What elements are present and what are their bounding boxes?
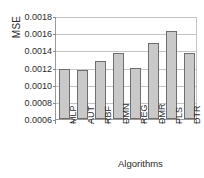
y-axis-tick-label: 0.0008 [24,99,52,108]
y-axis-tick-label: 0.0014 [24,47,52,56]
bar-chart: MSE 0.00180.00160.00140.00120.00100.0008… [0,0,204,178]
y-axis-tick-label: 0.0018 [24,13,52,22]
x-axis-tick-label-dmn: DMN [121,94,132,124]
x-axis-tick-label-reg: REG [139,94,150,124]
y-axis-tick-label: 0.0010 [24,82,52,91]
x-axis-tick-label-rbf: RBF [103,94,114,124]
x-axis-tick-labels: MLPAUTRBFDMNREGDMRPLSDTR [55,124,197,154]
y-axis-tick-labels: 0.00180.00160.00140.00120.00100.00080.00… [14,0,52,178]
x-axis-tick-label-dmr: DMR [157,94,168,124]
y-axis-tick-label: 0.0012 [24,65,52,74]
x-axis-tick-label-mlp: MLP [68,94,79,124]
y-axis-tick-label: 0.0006 [24,116,52,125]
x-axis-tick-label-aut: AUT [86,94,97,124]
x-axis-tick-label-dtr: DTR [192,94,203,124]
y-axis-tick-label: 0.0016 [24,30,52,39]
x-axis-tick-label-pls: PLS [174,94,185,124]
x-axis-title: Algorithms [118,158,163,169]
